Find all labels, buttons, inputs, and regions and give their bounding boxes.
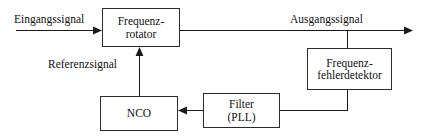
block-nco[interactable]: NCO: [100, 96, 178, 131]
block-nco-line1: NCO: [127, 107, 151, 119]
block-frequenzrotator-line1: Frequenz-: [118, 15, 165, 27]
block-frequenzrotator-line2: rotator: [126, 28, 157, 40]
label-referenzsignal: Referenzsignal: [48, 58, 117, 70]
block-diagram-canvas: Frequenz- rotator Frequenz- fehlerdetekt…: [0, 0, 425, 139]
label-eingangssignal: Eingangssignal: [14, 13, 84, 25]
block-filter-pll-line1: Filter: [229, 98, 254, 110]
block-frequenzrotator[interactable]: Frequenz- rotator: [102, 8, 180, 47]
label-ausgangssignal: Ausgangssignal: [290, 13, 363, 25]
block-filter-pll[interactable]: Filter (PLL): [203, 93, 280, 128]
block-frequenzfehlerdetektor-line1: Frequenz-: [326, 57, 373, 69]
block-filter-pll-line2: (PLL): [227, 111, 255, 123]
arrowhead-ausgangssignal: [404, 27, 413, 35]
block-frequenzfehlerdetektor[interactable]: Frequenz- fehlerdetektor: [307, 48, 392, 90]
arrowhead-eingangssignal: [93, 27, 102, 35]
block-frequenzfehlerdetektor-line2: fehlerdetektor: [317, 69, 382, 81]
arrowhead-nco-to-rotator: [136, 47, 144, 56]
arrowhead-filter-to-nco: [178, 107, 187, 115]
